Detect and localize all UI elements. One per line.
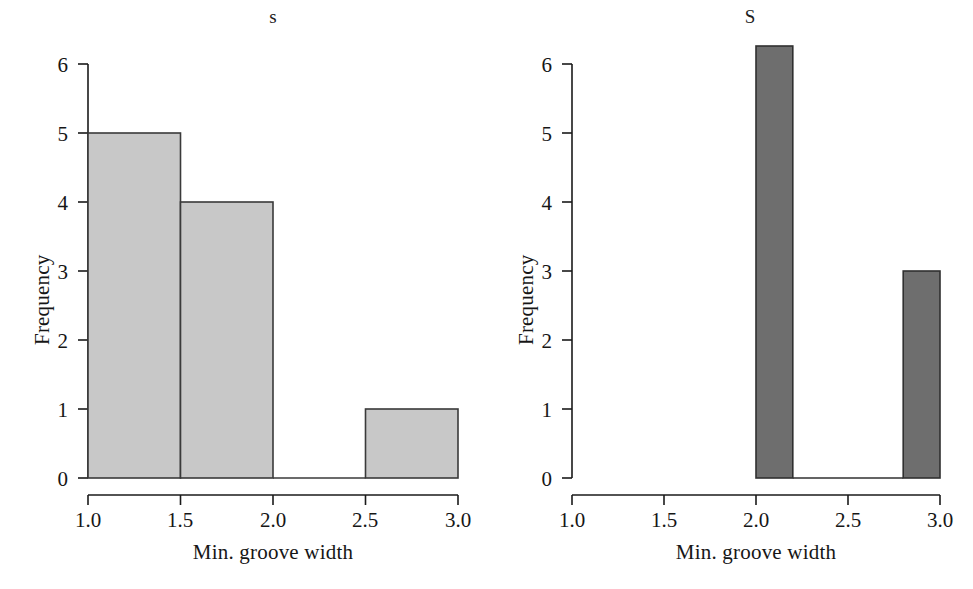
x-tick-label-5: 3.0 — [428, 508, 488, 533]
x-tick-label-1: 1.0 — [542, 508, 602, 533]
x-tick-label-3: 2.0 — [726, 508, 786, 533]
bar-bin-1 — [756, 46, 793, 478]
bar-bin-4 — [366, 409, 459, 478]
x-tick-label-4: 2.5 — [335, 508, 395, 533]
x-tick-label-5: 3.0 — [910, 508, 970, 533]
histogram-figure: s — [0, 0, 973, 589]
bar-series — [756, 46, 940, 478]
y-tick-label-4: 4 — [42, 191, 68, 216]
x-tick-marks — [88, 495, 458, 505]
y-tick-label-0: 0 — [526, 467, 552, 492]
x-axis-label: Min. groove width — [596, 540, 916, 565]
y-axis-label: Frequency — [30, 255, 55, 345]
y-tick-label-0: 0 — [42, 467, 68, 492]
y-tick-label-1: 1 — [42, 398, 68, 423]
panel-right: S — [487, 0, 973, 589]
y-tick-label-5: 5 — [526, 122, 552, 147]
x-tick-label-2: 1.5 — [150, 508, 210, 533]
x-tick-label-1: 1.0 — [58, 508, 118, 533]
x-tick-label-2: 1.5 — [634, 508, 694, 533]
y-tick-label-6: 6 — [42, 53, 68, 78]
x-axis-label: Min. groove width — [113, 540, 433, 565]
y-axis-label: Frequency — [514, 255, 539, 345]
x-tick-label-3: 2.0 — [243, 508, 303, 533]
bar-bin-2 — [181, 202, 274, 478]
y-tick-label-4: 4 — [526, 191, 552, 216]
y-tick-label-6: 6 — [526, 53, 552, 78]
bar-series — [88, 133, 458, 478]
y-tick-label-5: 5 — [42, 122, 68, 147]
panel-right-plot — [487, 0, 973, 589]
y-tick-marks — [562, 64, 572, 478]
x-tick-label-4: 2.5 — [818, 508, 878, 533]
y-tick-label-1: 1 — [526, 398, 552, 423]
panel-left-plot — [0, 0, 486, 589]
bar-bin-1 — [88, 133, 181, 478]
panel-left: s — [0, 0, 486, 589]
x-tick-marks — [572, 495, 940, 505]
y-tick-marks — [78, 64, 88, 478]
bar-bin-2 — [903, 271, 940, 478]
